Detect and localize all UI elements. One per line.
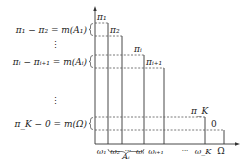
label-pii-minus-pii1: πᵢ − πᵢ₊₁ = m(Aᵢ) bbox=[12, 57, 88, 67]
brace-icon bbox=[89, 24, 93, 36]
x-label-wi: ωᵢ bbox=[136, 147, 145, 156]
x-label-dots-2: ··· bbox=[182, 147, 189, 155]
brace-icon bbox=[89, 56, 93, 68]
x-label-wi1: ωᵢ₊₁ bbox=[148, 147, 164, 156]
x-label-w2: ω₂ bbox=[110, 147, 120, 156]
brace-label-Ai: Aᵢ bbox=[121, 152, 130, 159]
step-label-pi2: π₂ bbox=[109, 25, 120, 35]
brace-icon bbox=[89, 118, 93, 130]
vdots-2: ⋮ bbox=[51, 96, 60, 106]
vdots-1: ⋮ bbox=[51, 40, 60, 50]
step-label-pii: πᵢ bbox=[133, 44, 142, 54]
x-axis-arrow-icon bbox=[235, 142, 240, 145]
x-label-omega: Ω bbox=[217, 146, 224, 156]
step-label-pii1: πᵢ₊₁ bbox=[145, 57, 162, 67]
step-label-zero: 0 bbox=[211, 119, 217, 129]
label-piK-minus-0: π_K − 0 = m(Ω) bbox=[14, 119, 88, 130]
x-label-wK: ω_K bbox=[195, 147, 213, 156]
step-diagram: π₁ − π₂ = m(A₁) ⋮ πᵢ − πᵢ₊₁ = m(Aᵢ) ⋮ π_… bbox=[0, 0, 246, 159]
label-pi1-minus-pi2: π₁ − π₂ = m(A₁) bbox=[15, 25, 88, 35]
left-braces bbox=[89, 24, 93, 130]
y-axis-arrow-icon bbox=[93, 6, 96, 11]
step-label-pi1: π₁ bbox=[96, 12, 107, 22]
x-label-w1: ω₁ bbox=[97, 147, 107, 156]
step-label-piK: π_K bbox=[190, 106, 209, 117]
